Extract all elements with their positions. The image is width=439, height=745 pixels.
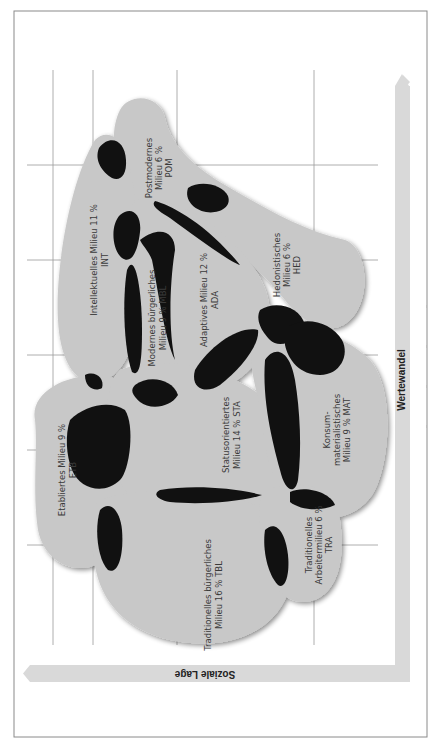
svg-text:Milieu 6 %: Milieu 6 % [154,146,164,190]
svg-text:Milieu 9 % MAT: Milieu 9 % MAT [342,397,352,462]
svg-text:materialistisches: materialistisches [332,393,342,466]
svg-text:Postmodernes: Postmodernes [144,137,154,198]
svg-text:ETB: ETB [68,462,78,479]
svg-text:Intellektuelles Milieu 11 %: Intellektuelles Milieu 11 % [89,204,99,316]
svg-text:Traditionelles: Traditionelles [304,516,314,574]
axis-label-wertewandel: Wertewandel [396,349,407,411]
axis-label-soziale-lage: Soziale Lage [174,669,235,680]
svg-text:Traditionelles bürgerliches: Traditionelles bürgerliches [203,539,213,652]
svg-text:Adaptives Milieu 12 %: Adaptives Milieu 12 % [199,253,209,347]
svg-text:Modernes bürgerliches: Modernes bürgerliches [147,269,157,367]
svg-text:Hedonistisches: Hedonistisches [272,232,282,297]
svg-text:Statusorientiertes: Statusorientiertes [221,396,231,473]
svg-text:ADA: ADA [210,291,220,309]
svg-text:Milieu 9 % MBL: Milieu 9 % MBL [158,285,168,350]
label-sta: Statusorientiertes Milieu 14 % STA [221,396,242,473]
milieu-diagram: Soziale Lage Wertewandel Postmodernes Mi… [0,0,439,745]
svg-text:Milieu 16 % TBL: Milieu 16 % TBL [214,561,224,629]
svg-text:INT: INT [100,252,110,267]
svg-text:Milieu 6 %: Milieu 6 % [282,243,292,287]
svg-text:Milieu 14 % STA: Milieu 14 % STA [232,401,242,469]
svg-text:Konsum-: Konsum- [322,412,332,449]
svg-text:POM: POM [164,158,174,177]
svg-text:Etabliertes Milieu 9 %: Etabliertes Milieu 9 % [57,424,67,516]
svg-text:Arbeitermilieu 6 %: Arbeitermilieu 6 % [314,505,324,584]
svg-text:HED: HED [292,255,302,274]
svg-text:TRA: TRA [324,537,334,555]
